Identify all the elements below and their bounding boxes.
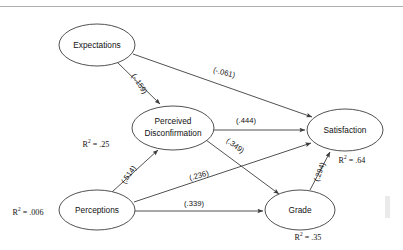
coef-expectations-to-satisfaction: (-.061) bbox=[212, 65, 236, 79]
r2-grade: R2 = .35 bbox=[295, 231, 322, 242]
coef-expectations-to-perceived: (-.159) bbox=[130, 72, 150, 96]
coef-perceptions-to-grade: (.339) bbox=[184, 199, 204, 208]
scan-artifact bbox=[385, 196, 390, 218]
coef-perceptions-to-perceived: (.514) bbox=[119, 164, 138, 186]
path-diagram: Expectations Perceived Disconfirmation S… bbox=[0, 0, 403, 250]
figure-canvas: Expectations Perceived Disconfirmation S… bbox=[0, 0, 403, 250]
node-label-disconfirmation: Disconfirmation bbox=[144, 128, 202, 138]
coef-perceived-to-grade: (.349) bbox=[225, 136, 247, 155]
r2-value-perceptions: = .006 bbox=[21, 208, 44, 217]
node-label-grade: Grade bbox=[288, 205, 311, 215]
coef-grade-to-satisfaction: (.294) bbox=[312, 161, 327, 183]
node-expectations[interactable]: Expectations bbox=[59, 24, 135, 66]
node-grade[interactable]: Grade bbox=[265, 190, 335, 230]
r2-perceived-disconfirmation: R2 = .25 bbox=[83, 138, 110, 149]
coef-perceived-to-satisfaction: (.444) bbox=[236, 116, 256, 125]
node-perceived-disconfirmation[interactable]: Perceived Disconfirmation bbox=[132, 106, 214, 150]
node-label-satisfaction: Satisfaction bbox=[324, 125, 367, 135]
r2-satisfaction: R2 = .64 bbox=[339, 154, 366, 165]
r2-perceptions: R2 = .006 bbox=[13, 206, 44, 217]
node-label-perceived: Perceived bbox=[155, 116, 192, 126]
node-label-expectations: Expectations bbox=[73, 40, 121, 50]
node-perceptions[interactable]: Perceptions bbox=[59, 190, 135, 230]
r2-value-satisfaction: = .64 bbox=[347, 156, 366, 165]
node-satisfaction[interactable]: Satisfaction bbox=[307, 109, 383, 151]
r2-value-grade: = .35 bbox=[303, 233, 322, 242]
node-label-perceptions: Perceptions bbox=[75, 205, 119, 215]
r2-value-perceived: = .25 bbox=[91, 140, 110, 149]
